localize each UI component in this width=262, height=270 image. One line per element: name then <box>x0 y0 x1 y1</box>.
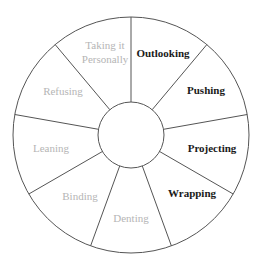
segment-label-taking-it-line1: Taking it <box>85 39 124 51</box>
spoke-160 <box>142 166 171 246</box>
segment-label-binding: Binding <box>62 190 98 202</box>
wheel-diagram: Outlooking Pushing Projecting Wrapping D… <box>0 0 262 270</box>
spoke-200 <box>91 166 120 246</box>
segment-labels: Outlooking Pushing Projecting Wrapping D… <box>33 39 237 224</box>
segment-label-taking-it-line2: Personally <box>82 53 129 65</box>
spoke-240 <box>29 152 103 195</box>
inner-hub <box>98 102 164 168</box>
segment-label-leaning: Leaning <box>33 142 70 154</box>
segment-label-projecting: Projecting <box>188 142 237 154</box>
segment-label-denting: Denting <box>113 212 149 224</box>
segment-label-refusing: Refusing <box>43 85 83 97</box>
spoke-280 <box>15 115 99 130</box>
segment-label-outlooking: Outlooking <box>136 47 190 59</box>
spoke-80 <box>164 115 248 130</box>
segment-label-pushing: Pushing <box>187 84 225 96</box>
segment-label-wrapping: Wrapping <box>168 187 217 199</box>
